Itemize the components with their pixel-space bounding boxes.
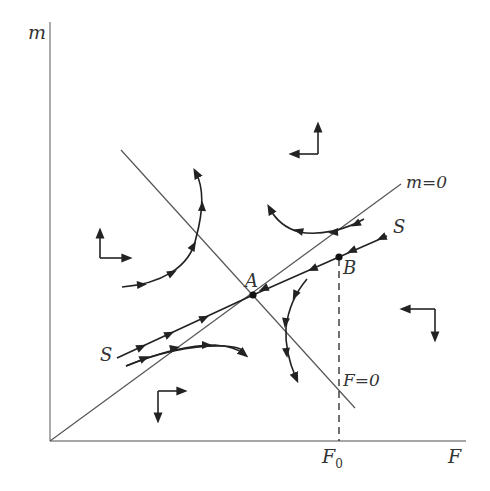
phase-diagram: m F F0 m=0 F=0 S S — [0, 0, 490, 491]
f0-tick-main: F — [321, 445, 336, 467]
trajectories — [122, 173, 364, 378]
arrow-head-icon — [188, 239, 200, 252]
arrow-head-icon — [328, 228, 339, 237]
F-nullcline-line — [121, 150, 355, 408]
m-nullcline-line — [50, 184, 401, 441]
arrow-head-icon — [306, 263, 318, 274]
arrow-head-icon — [137, 280, 148, 289]
m-nullcline-label: m=0 — [406, 172, 447, 192]
arrow-head-icon — [163, 328, 175, 339]
arrow-head-icon — [198, 312, 210, 323]
arrow-head-icon — [345, 245, 357, 256]
y-axis-label: m — [28, 21, 46, 43]
F-nullcline-label: F=0 — [342, 370, 380, 390]
direction-indicators — [0, 0, 435, 418]
axes: m F F0 — [28, 21, 466, 471]
x-axis-label: F — [447, 445, 462, 467]
arrow-head-icon — [375, 232, 387, 243]
direction-indicator-upper-left — [0, 0, 127, 258]
trajectory-lower-left — [126, 346, 243, 366]
nullclines: m=0 F=0 — [50, 150, 447, 441]
f0-tick-label: F0 — [321, 445, 343, 471]
point-A — [249, 291, 256, 298]
f0-tick-subscript: 0 — [335, 457, 343, 471]
direction-indicator-lower-right — [0, 0, 435, 337]
arrow-head-icon — [198, 201, 206, 211]
arrow-head-icon — [281, 318, 290, 329]
trajectory-lower-left-tail — [126, 345, 244, 366]
manifold-label-left: S — [100, 344, 112, 365]
point-B-label: B — [342, 257, 356, 278]
manifold-label-right: S — [393, 216, 405, 237]
point-A-label: A — [243, 270, 258, 291]
trajectory-upper-left — [122, 173, 202, 287]
arrow-head-icon — [282, 348, 291, 359]
arrow-head-icon — [135, 341, 147, 352]
direction-indicator-upper-right — [0, 0, 318, 154]
point-B — [335, 253, 342, 260]
arrow-head-icon — [202, 341, 212, 349]
